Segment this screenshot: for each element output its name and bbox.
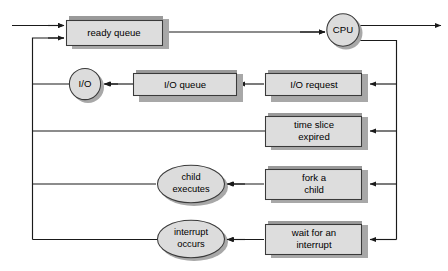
node-io-queue[interactable]: I/O queue [134, 70, 244, 102]
wait-interrupt-body [266, 225, 362, 255]
io-body [69, 68, 100, 99]
node-wait-for-an-interrupt[interactable]: wait for an interrupt [266, 221, 369, 258]
process-scheduling-queueing-diagram: ready queue CPU I/O I/O queue I/O reques… [0, 0, 448, 271]
node-fork-a-child[interactable]: fork a child [266, 166, 369, 203]
io-queue-body [134, 74, 237, 96]
edge-left-return-bus [33, 38, 65, 240]
node-ready-queue[interactable]: ready queue [67, 16, 170, 49]
connector-layer [12, 26, 441, 240]
fork-child-body [266, 170, 362, 200]
node-cpu[interactable]: CPU [327, 14, 363, 50]
child-executes-body [158, 165, 225, 202]
io-request-body [266, 74, 362, 96]
node-io-request[interactable]: I/O request [266, 70, 369, 102]
node-time-slice-expired[interactable]: time slice expired [266, 113, 369, 150]
interrupt-occurs-body [158, 220, 225, 257]
time-slice-body [266, 117, 362, 147]
node-child-executes[interactable]: child executes [158, 165, 229, 206]
node-io[interactable]: I/O [69, 68, 104, 103]
ready-queue-body [67, 21, 163, 46]
node-interrupt-occurs[interactable]: interrupt occurs [158, 220, 229, 261]
cpu-body [327, 14, 359, 46]
queueing-diagram-canvas: ready queue CPU I/O I/O queue I/O reques… [0, 0, 448, 271]
